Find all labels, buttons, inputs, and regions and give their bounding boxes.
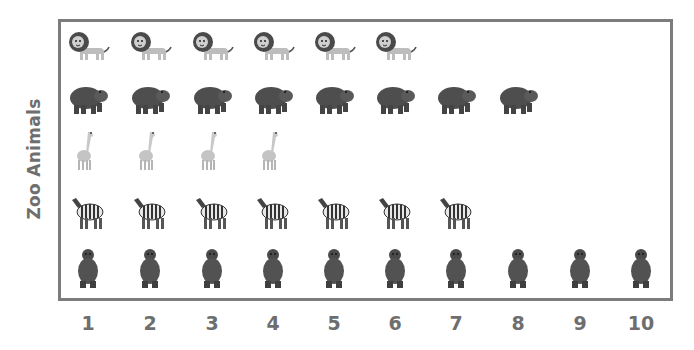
lion-icon bbox=[312, 24, 356, 68]
giraffe-icon bbox=[190, 128, 234, 172]
hippo-icon bbox=[312, 75, 356, 119]
y-axis-label: Zoo Animals bbox=[24, 98, 44, 219]
bear-icon bbox=[558, 246, 602, 290]
zebra-icon bbox=[251, 190, 295, 234]
bear-icon bbox=[373, 246, 417, 290]
lion-icon bbox=[251, 24, 295, 68]
zebra-icon bbox=[434, 190, 478, 234]
bear-icon bbox=[190, 246, 234, 290]
giraffe-icon bbox=[128, 128, 172, 172]
bear-icon bbox=[312, 246, 356, 290]
hippo-icon bbox=[251, 75, 295, 119]
x-tick-label: 2 bbox=[130, 312, 170, 334]
bear-icon bbox=[619, 246, 663, 290]
x-tick-label: 6 bbox=[375, 312, 415, 334]
x-tick-label: 5 bbox=[314, 312, 354, 334]
hippo-icon bbox=[434, 75, 478, 119]
hippo-icon bbox=[66, 75, 110, 119]
x-tick-label: 3 bbox=[192, 312, 232, 334]
x-tick-label: 8 bbox=[498, 312, 538, 334]
x-tick-label: 4 bbox=[253, 312, 293, 334]
giraffe-icon bbox=[251, 128, 295, 172]
bear-icon bbox=[66, 246, 110, 290]
lion-icon bbox=[373, 24, 417, 68]
zebra-icon bbox=[190, 190, 234, 234]
bear-icon bbox=[128, 246, 172, 290]
bear-icon bbox=[496, 246, 540, 290]
x-tick-label: 7 bbox=[436, 312, 476, 334]
lion-icon bbox=[128, 24, 172, 68]
lion-icon bbox=[66, 24, 110, 68]
x-tick-label: 1 bbox=[68, 312, 108, 334]
giraffe-icon bbox=[66, 128, 110, 172]
zebra-icon bbox=[373, 190, 417, 234]
bear-icon bbox=[251, 246, 295, 290]
hippo-icon bbox=[128, 75, 172, 119]
bear-icon bbox=[434, 246, 478, 290]
zebra-icon bbox=[312, 190, 356, 234]
zebra-icon bbox=[128, 190, 172, 234]
zebra-icon bbox=[66, 190, 110, 234]
x-tick-label: 10 bbox=[621, 312, 661, 334]
lion-icon bbox=[190, 24, 234, 68]
x-tick-label: 9 bbox=[560, 312, 600, 334]
hippo-icon bbox=[496, 75, 540, 119]
hippo-icon bbox=[373, 75, 417, 119]
hippo-icon bbox=[190, 75, 234, 119]
